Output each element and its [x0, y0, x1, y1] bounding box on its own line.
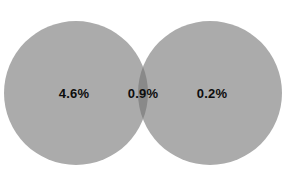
venn-label-intersection: 0.9% — [128, 87, 158, 100]
venn-label-right-only: 0.2% — [197, 87, 227, 100]
venn-diagram-figure: 4.6% 0.9% 0.2% — [0, 0, 286, 187]
venn-label-left-only: 4.6% — [59, 87, 89, 100]
